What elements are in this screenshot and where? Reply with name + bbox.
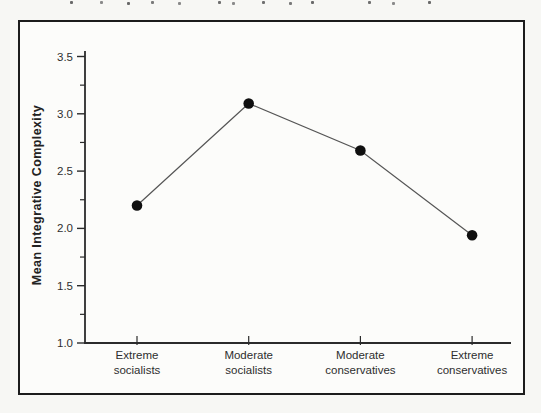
y-tick-label: 3.0 [57,108,73,120]
y-axis-title: Mean Integrative Complexity [30,105,44,285]
y-tick-label: 3.5 [57,51,73,63]
x-category-label-line2: conservatives [325,364,396,376]
data-point [467,230,478,241]
y-tick-label: 1.0 [57,337,73,349]
x-category-label-line1: Extreme [451,349,494,361]
x-category-label-line1: Moderate [336,349,385,361]
x-category-label-line2: socialists [225,364,272,376]
data-point [243,98,254,109]
cropped-caption-fragments [0,0,541,6]
figure-panel: 3.53.02.52.01.51.0ExtremesocialistsModer… [18,20,525,395]
scanned-page: 3.53.02.52.01.51.0ExtremesocialistsModer… [0,0,541,413]
caption-descender-marks [70,1,73,4]
x-category-label-line1: Moderate [224,349,273,361]
x-category-label-line2: conservatives [437,364,508,376]
y-tick-label: 2.0 [57,222,73,234]
data-point [132,200,143,211]
y-tick-label: 1.5 [57,280,73,292]
line-chart: 3.53.02.52.01.51.0ExtremesocialistsModer… [20,22,523,393]
data-point [355,145,366,156]
y-tick-label: 2.5 [57,165,73,177]
data-line [137,103,472,235]
x-category-label-line2: socialists [114,364,161,376]
x-category-label-line1: Extreme [116,349,159,361]
